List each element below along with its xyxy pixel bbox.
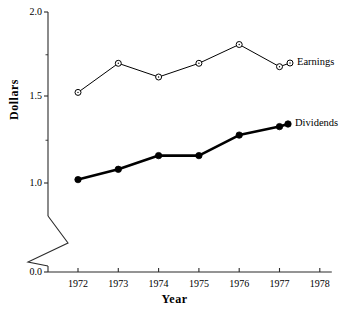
data-point-marker [285, 121, 291, 127]
data-point-marker [155, 152, 161, 158]
data-point-marker [115, 166, 121, 172]
data-point-marker [75, 176, 81, 182]
x-tick-label: 1978 [300, 279, 340, 289]
data-point-marker-center [158, 76, 159, 77]
plot-area [0, 0, 349, 312]
series-line [78, 127, 280, 180]
series-line [78, 45, 280, 93]
x-tick-label: 1972 [58, 279, 98, 289]
data-point-marker [236, 132, 242, 138]
x-tick-label: 1975 [179, 279, 219, 289]
chart-container: Dollars Year 0.01.01.52.0197219731974197… [0, 0, 349, 312]
data-point-marker-center [239, 44, 240, 45]
data-point-marker [276, 123, 282, 129]
series-label-earnings: Earnings [297, 57, 334, 68]
x-tick-label: 1977 [260, 279, 300, 289]
axis-lines [28, 12, 332, 272]
y-tick-label: 1.0 [0, 178, 42, 188]
data-point-marker-center [289, 62, 290, 63]
y-tick-label: 0.0 [0, 267, 42, 277]
y-tick-label: 1.5 [0, 91, 42, 101]
series-label-dividends: Dividends [295, 118, 338, 129]
data-point-marker-center [198, 63, 199, 64]
data-series [75, 42, 293, 183]
axis-ticks [44, 12, 320, 272]
x-tick-label: 1976 [219, 279, 259, 289]
x-tick-label: 1974 [139, 279, 179, 289]
data-point-marker-center [118, 63, 119, 64]
data-point-marker-center [77, 92, 78, 93]
data-point-marker-center [279, 66, 280, 67]
y-tick-label: 2.0 [0, 7, 42, 17]
x-tick-label: 1973 [98, 279, 138, 289]
data-point-marker [196, 152, 202, 158]
